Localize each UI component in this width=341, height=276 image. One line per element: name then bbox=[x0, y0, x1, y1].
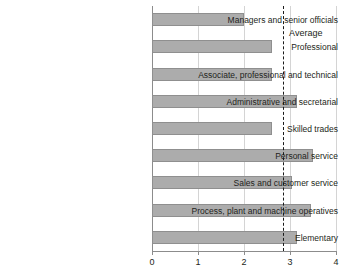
bar-chart: 01234 Managers and senior officialsProfe… bbox=[0, 0, 341, 276]
average-line bbox=[283, 6, 284, 251]
tick-mark-3 bbox=[290, 251, 291, 255]
category-label: Managers and senior officials bbox=[191, 15, 341, 25]
tick-mark-4 bbox=[336, 251, 337, 255]
average-label: Average bbox=[289, 28, 322, 38]
category-label: Process, plant and machine operatives bbox=[191, 206, 341, 216]
tick-mark-2 bbox=[244, 251, 245, 255]
category-label: Personal service bbox=[191, 151, 341, 161]
tick-mark-0 bbox=[152, 251, 153, 255]
category-label: Sales and customer service bbox=[191, 178, 341, 188]
x-tick-label-2: 2 bbox=[241, 257, 246, 267]
category-label: Associate, professional and technical bbox=[191, 70, 341, 80]
x-tick-label-3: 3 bbox=[287, 257, 292, 267]
category-label: Elementary bbox=[191, 233, 341, 243]
x-tick-label-1: 1 bbox=[195, 257, 200, 267]
tick-mark-1 bbox=[198, 251, 199, 255]
category-label: Skilled trades bbox=[191, 124, 341, 134]
x-tick-label-4: 4 bbox=[333, 257, 338, 267]
x-tick-label-0: 0 bbox=[149, 257, 154, 267]
category-label: Administrative and secretarial bbox=[191, 97, 341, 107]
category-label: Professional bbox=[191, 42, 341, 52]
